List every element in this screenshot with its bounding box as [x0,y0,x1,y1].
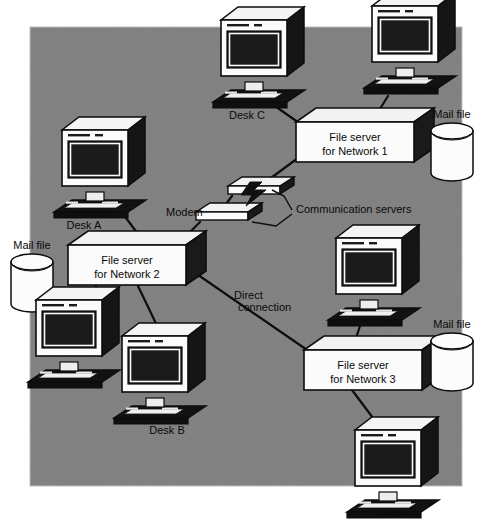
monitor-side [402,225,419,294]
computer-desk-c [213,7,305,108]
monitor-stand [86,192,104,201]
file-server-label-line2: for Network 2 [94,268,159,280]
desk-label-a: Desk A [67,219,103,231]
monitor-side [287,7,304,76]
comm-server-lower [196,203,262,220]
monitor-side [421,417,438,486]
file-server-3: File serverfor Network 3 [304,336,442,390]
desk-label-c: Desk C [229,109,265,121]
monitor-side [102,287,119,356]
file-server-1: File serverfor Network 1 [296,108,434,162]
computer-desk-a [54,117,146,218]
mailfile-network3: Mail file [431,318,473,391]
file-server-label-line1: File server [337,359,389,371]
file-server-label-line1: File server [101,254,153,266]
mail-file-label: Mail file [433,108,470,120]
monitor-stand [146,398,164,407]
computer-desk-d [347,417,439,518]
mailfile-network1: Mail file [431,108,473,181]
desk-label-b: Desk B [149,424,184,436]
mail-file-label: Mail file [433,318,470,330]
network-diagram-canvas: File serverfor Network 1File serverfor N… [0,0,490,524]
monitor-stand [360,300,378,309]
computer-network3-ne [328,225,420,326]
mail-file-label: Mail file [13,239,50,251]
computer-desk-b [114,323,206,424]
diagram-svg: File serverfor Network 1File serverfor N… [0,0,490,524]
monitor-stand [396,68,414,77]
monitor-stand [245,82,263,91]
label-direct-connection-2: connection [238,301,291,313]
file-server-label-line1: File server [329,131,381,143]
file-server-2: File serverfor Network 2 [68,231,206,285]
label-modem: Modem [166,206,203,218]
monitor-stand [379,492,397,501]
file-server-label-line2: for Network 3 [330,373,395,385]
label-direct-connection-1: Direct [234,289,263,301]
monitor-side [128,117,145,186]
monitor-side [188,323,205,392]
label-communication-servers: Communication servers [296,203,412,215]
computer-network2-w [28,287,120,388]
file-server-label-line2: for Network 1 [322,145,387,157]
computer-network1-nw [364,0,456,94]
monitor-stand [60,362,78,371]
desk-label-d: Desk D [381,506,417,518]
